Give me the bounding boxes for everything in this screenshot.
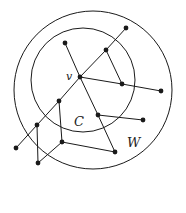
graph-diagram: v C W xyxy=(0,0,186,213)
node-M xyxy=(113,150,118,155)
edge-L-J xyxy=(16,125,37,148)
node-J xyxy=(35,123,40,128)
label-W: W xyxy=(127,135,142,150)
edge-H-M xyxy=(98,115,115,152)
edge-G-K xyxy=(59,101,62,142)
node-H xyxy=(96,113,101,118)
edge-K-M xyxy=(62,142,115,152)
label-v: v xyxy=(66,70,73,83)
edge-v-D xyxy=(80,50,106,77)
edge-D-E xyxy=(106,50,122,84)
edge-v-H xyxy=(80,77,98,115)
label-C: C xyxy=(74,114,84,129)
edge-E-F xyxy=(122,84,161,91)
node-G xyxy=(57,99,62,104)
edge-N-K xyxy=(38,142,62,163)
node-K xyxy=(60,140,65,145)
node-v xyxy=(78,75,83,80)
node-D xyxy=(104,48,109,53)
node-F xyxy=(159,89,164,94)
edge-J-G xyxy=(37,101,59,125)
node-N xyxy=(36,161,41,166)
node-I xyxy=(141,118,146,123)
edge-v-E xyxy=(80,77,122,84)
node-L xyxy=(14,146,19,151)
node-A xyxy=(124,26,129,31)
node-E xyxy=(120,82,125,87)
edge-J-N xyxy=(37,125,38,163)
node-B xyxy=(63,41,68,46)
